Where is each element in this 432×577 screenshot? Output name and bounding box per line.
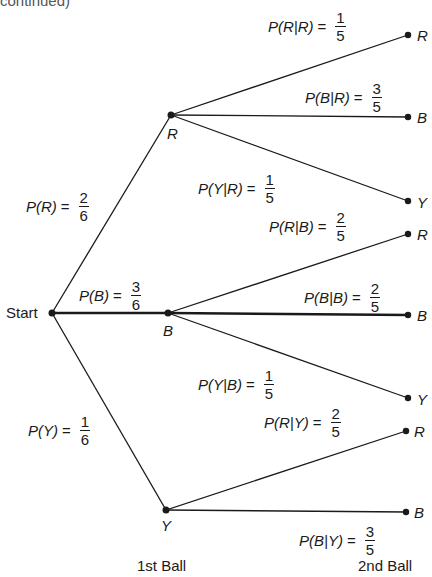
first-node-B: B <box>163 323 173 338</box>
branch-Y-R <box>166 431 406 510</box>
second-node-R2: R <box>417 227 428 242</box>
prob-B: P(B)= 36 <box>79 279 141 312</box>
prob-R: P(R)= 26 <box>26 190 89 223</box>
branch-start-Y <box>52 313 166 510</box>
node-Y-dot <box>163 507 170 514</box>
prob-Y: P(Y)= 16 <box>28 414 90 447</box>
prob-R-given-Y: P(R|Y)= 25 <box>264 406 341 439</box>
prob-R-given-R: P(R|R)= 15 <box>268 10 346 43</box>
second-node-B3: B <box>414 505 424 520</box>
prob-R-given-B: P(R|B)= 25 <box>269 210 346 243</box>
first-node-R: R <box>167 126 178 141</box>
prob-Y-given-B: P(Y|B)= 15 <box>198 368 274 401</box>
second-node-B2: B <box>417 308 427 323</box>
second-node-R1: R <box>417 28 428 43</box>
first-ball-label: 1st Ball <box>137 558 186 573</box>
branch-R-B <box>171 115 408 117</box>
node-R-dot <box>168 112 175 119</box>
second-node-R3: R <box>414 424 425 439</box>
second-ball-label: 2nd Ball <box>358 558 412 573</box>
second-node-B1: B <box>417 110 427 125</box>
start-label: Start <box>6 305 38 320</box>
prob-Y-given-R: P(Y|R)= 15 <box>198 172 275 205</box>
prob-B-given-R: P(B|R)= 35 <box>305 81 382 114</box>
second-node-Y2: Y <box>417 392 427 407</box>
prob-B-given-B: P(B|B)= 25 <box>304 281 380 314</box>
node-B-dot <box>165 310 172 317</box>
prob-B-given-Y: P(B|Y)= 35 <box>299 524 375 557</box>
branch-Y-B <box>166 510 406 512</box>
node-start-dot <box>49 310 56 317</box>
first-node-Y: Y <box>161 518 171 533</box>
second-node-Y1: Y <box>417 195 427 210</box>
